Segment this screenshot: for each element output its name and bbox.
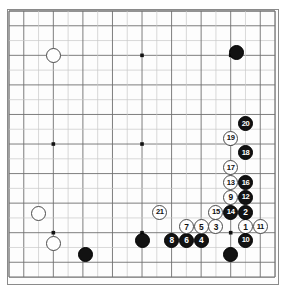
stone-number-label: 12 [242, 193, 250, 201]
stone-number-label: 16 [242, 178, 250, 186]
stone-white[interactable] [46, 236, 61, 251]
numbered-stone-10[interactable]: 10 [238, 233, 253, 248]
stone-number-label: 2 [243, 207, 247, 215]
stone-number-label: 4 [199, 236, 203, 244]
stone-number-label: 9 [229, 193, 233, 201]
numbered-stone-17[interactable]: 17 [223, 160, 238, 175]
stone-white[interactable] [31, 206, 46, 221]
stone-number-label: 13 [227, 178, 235, 186]
numbered-stone-2[interactable]: 2 [238, 205, 253, 220]
numbered-stone-9[interactable]: 9 [223, 190, 238, 205]
numbered-stone-3[interactable]: 3 [208, 219, 223, 234]
stone-number-label: 21 [156, 208, 164, 216]
stone-black[interactable] [223, 247, 238, 262]
stone-number-label: 6 [184, 236, 188, 244]
stone-black[interactable] [78, 247, 93, 262]
numbered-stone-18[interactable]: 18 [238, 145, 253, 160]
stone-number-label: 7 [184, 222, 188, 230]
numbered-stone-5[interactable]: 5 [194, 219, 209, 234]
numbered-stone-6[interactable]: 6 [179, 233, 194, 248]
stone-black[interactable] [135, 233, 150, 248]
numbered-stone-21[interactable]: 21 [152, 205, 167, 220]
numbered-stone-15[interactable]: 15 [208, 205, 223, 220]
numbered-stone-14[interactable]: 14 [223, 205, 238, 220]
go-board-diagram: 123456789101112131415161718192021 Go gam… [0, 0, 290, 294]
numbered-stone-16[interactable]: 16 [238, 175, 253, 190]
stone-number-label: 18 [242, 149, 250, 157]
numbered-stone-20[interactable]: 20 [238, 116, 253, 131]
stone-number-label: 19 [227, 134, 235, 142]
numbered-stone-13[interactable]: 13 [223, 175, 238, 190]
numbered-stone-11[interactable]: 11 [253, 219, 268, 234]
stone-number-label: 5 [199, 222, 203, 230]
stone-number-label: 15 [212, 208, 220, 216]
stone-number-label: 11 [257, 223, 264, 231]
numbered-stone-12[interactable]: 12 [238, 190, 253, 205]
stone-number-label: 14 [227, 208, 235, 216]
stone-black[interactable] [229, 45, 244, 60]
stone-number-label: 1 [243, 222, 247, 230]
stone-white[interactable] [46, 48, 61, 63]
stone-number-label: 17 [227, 164, 235, 172]
stone-number-label: 20 [242, 119, 250, 127]
stone-number-label: 10 [242, 236, 250, 244]
stone-number-label: 3 [214, 222, 218, 230]
numbered-stone-4[interactable]: 4 [194, 233, 209, 248]
numbered-stone-8[interactable]: 8 [164, 233, 179, 248]
stone-layer: 123456789101112131415161718192021 [0, 0, 290, 294]
numbered-stone-19[interactable]: 19 [223, 131, 238, 146]
stone-number-label: 8 [169, 236, 173, 244]
numbered-stone-7[interactable]: 7 [179, 219, 194, 234]
